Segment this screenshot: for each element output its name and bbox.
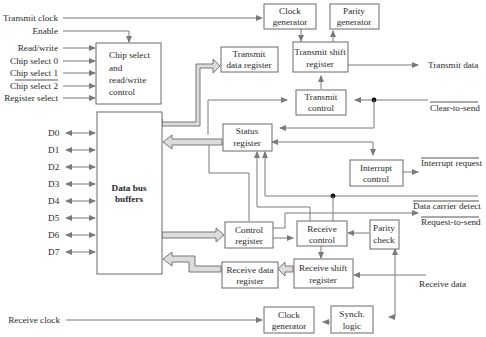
d6-label: D6 xyxy=(48,230,60,240)
synch-logic-text-2: logic xyxy=(343,321,361,331)
chip-select-text-3: read/write xyxy=(109,75,146,85)
rx-clock-gen-text-2: generator xyxy=(272,321,307,331)
interrupt-control-block: Interrupt control xyxy=(350,160,403,186)
receive-clock-label: Receive clock xyxy=(8,315,60,325)
request-to-send-label: Request-to-send xyxy=(421,217,481,227)
uart-block-diagram: Transmit clock Enable Read/write Chip se… xyxy=(0,0,486,337)
tx-control-text-1: Transmit xyxy=(305,92,338,102)
chip-select-text-4: control xyxy=(109,87,135,97)
transmit-data-label: Transmit data xyxy=(428,60,478,70)
transmit-clock-label: Transmit clock xyxy=(3,13,58,23)
chip-select-text-1: Chip select xyxy=(109,50,151,60)
clear-to-send-label: Clear-to-send xyxy=(430,103,480,113)
read-write-label: Read/write xyxy=(18,43,58,53)
interrupt-control-text-1: Interrupt xyxy=(360,163,393,173)
d3-label: D3 xyxy=(48,179,60,189)
tx-shift-reg-text-1: Transmit shift xyxy=(294,47,346,57)
transmit-shift-register-block: Transmit shift register xyxy=(293,42,348,72)
chip-select-text-2: and xyxy=(109,63,123,73)
chip-select-1-label: Chip select 1 xyxy=(10,68,58,78)
rx-data-reg-text-2: register xyxy=(236,276,264,286)
rx-control-text-2: control xyxy=(309,235,335,245)
tx-control-text-2: control xyxy=(308,103,334,113)
rx-data-reg-text-1: Receive data xyxy=(226,265,273,275)
parity-check-text-1: Parity xyxy=(373,223,395,233)
interrupt-request-label: Interrupt request xyxy=(421,158,482,168)
d5-label: D5 xyxy=(48,213,60,223)
parity-generator-block: Parity generator xyxy=(330,4,379,29)
data-bus-buffers-text-2: buffers xyxy=(115,194,143,204)
data-bus-buffers-text-1: Data bus xyxy=(112,183,147,193)
data-bus-buffers-block: Data bus buffers xyxy=(97,112,162,274)
rx-clock-gen-text-1: Clock xyxy=(278,310,300,320)
tx-clock-gen-text-1: Clock xyxy=(279,6,301,16)
tx-shift-reg-text-2: register xyxy=(306,59,334,69)
bus-from-receive-data-register xyxy=(163,252,221,272)
parity-gen-text-2: generator xyxy=(337,17,372,27)
tx-clock-gen-text-2: generator xyxy=(273,17,308,27)
chip-select-0-label: Chip select 0 xyxy=(10,56,58,66)
enable-label: Enable xyxy=(32,26,58,36)
chip-select-2-label: Chip select 2 xyxy=(10,81,58,91)
tx-data-reg-text-2: data register xyxy=(226,60,271,70)
d0-label: D0 xyxy=(48,128,60,138)
data-lines: D0 D1 D2 D3 D4 D5 D6 D7 xyxy=(48,128,95,257)
bus-to-control-register xyxy=(162,228,224,242)
receive-shift-register-block: Receive shift register xyxy=(294,259,353,288)
rx-shift-reg-text-1: Receive shift xyxy=(299,263,348,273)
synch-logic-block: Synch. logic xyxy=(331,306,373,333)
control-reg-text-1: Control xyxy=(235,225,264,235)
d4-label: D4 xyxy=(48,196,60,206)
interrupt-control-text-2: control xyxy=(363,174,389,184)
enable-line xyxy=(63,31,129,42)
status-to-control-register-line xyxy=(209,145,249,221)
d1-label: D1 xyxy=(48,145,60,155)
rx-control-text-1: Receive xyxy=(307,224,337,234)
bus-shift-to-receive-data-register xyxy=(278,262,293,276)
transmit-data-register-block: Transmit data register xyxy=(221,47,278,72)
status-reg-text-2: register xyxy=(233,138,261,148)
receive-data-label: Receive data xyxy=(419,279,466,289)
data-carrier-detect-label: Data carrier detect xyxy=(413,201,481,211)
control-register-block: Control register xyxy=(225,222,273,248)
register-select-label: Register select xyxy=(4,93,58,103)
receive-control-block: Receive control xyxy=(297,221,347,246)
status-interrupt-line xyxy=(272,142,373,155)
chip-select-block: Chip select and read/write control xyxy=(96,43,161,104)
synch-logic-text-1: Synch. xyxy=(339,309,364,319)
parity-check-text-2: check xyxy=(373,235,395,245)
tx-data-reg-text-1: Transmit xyxy=(233,49,266,59)
rx-shift-reg-text-2: register xyxy=(309,275,337,285)
receive-clock-generator-block: Clock generator xyxy=(264,307,314,333)
bus-to-transmit-data-register xyxy=(162,59,220,126)
d2-label: D2 xyxy=(48,162,60,172)
transmit-control-block: Transmit control xyxy=(296,90,346,115)
parity-gen-text-1: Parity xyxy=(343,6,365,16)
right-signal-labels: Transmit data Clear-to-send Interrupt re… xyxy=(413,60,482,289)
bus-from-status-register xyxy=(163,135,222,149)
transmit-clock-generator-block: Clock generator xyxy=(264,4,316,29)
status-register-block: Status register xyxy=(223,124,272,151)
control-reg-text-2: register xyxy=(235,236,263,246)
parity-check-block: Parity check xyxy=(370,220,399,249)
status-reg-text-1: Status xyxy=(236,126,259,136)
receive-data-register-block: Receive data register xyxy=(222,262,278,288)
d7-label: D7 xyxy=(48,247,60,257)
